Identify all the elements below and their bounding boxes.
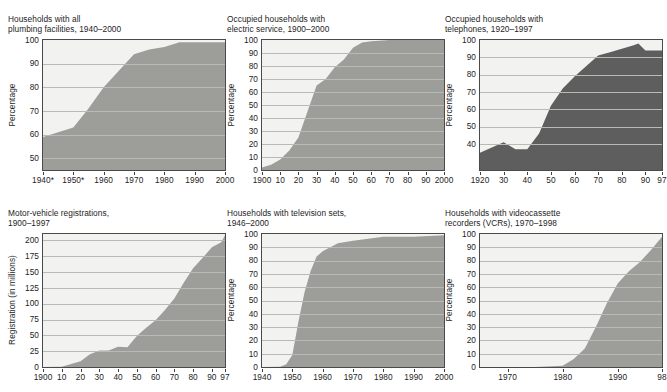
x-tick-label: 70: [594, 175, 603, 185]
plot-area-telephones: Percentage 100908070605040 1920304050607…: [443, 39, 658, 199]
gridline: [262, 131, 444, 132]
y-tick-label: 70: [30, 106, 39, 116]
y-axis-ticks-plumbing: 1009080706050: [18, 39, 42, 171]
chart-title-motor-vehicles: Motor-vehicle registrations, 1900–1997: [8, 208, 221, 229]
plot-area-motor-vehicles: Registration (in millions) 2001751501251…: [6, 233, 221, 392]
y-tick-label: 0: [253, 362, 258, 372]
area-series-motor-vehicles: [43, 234, 225, 367]
x-tick-label: 80: [188, 372, 197, 382]
y-tick-label: 175: [25, 251, 39, 261]
gridline: [480, 340, 662, 341]
chart-title-electric: Occupied households with electric servic…: [227, 14, 440, 35]
y-tick-label: 75: [30, 314, 39, 324]
y-tick-label: 50: [249, 295, 258, 305]
gridline: [480, 144, 662, 145]
x-tick-label: 1940*: [32, 175, 54, 185]
y-tick-label: 60: [249, 282, 258, 292]
gridline: [43, 240, 225, 241]
x-tick-label: 60: [151, 372, 160, 382]
x-tick-label: 30: [95, 372, 104, 382]
y-axis-ticks-electric: 1009080706050403020100: [237, 39, 261, 171]
x-tick-label: 1990: [404, 372, 423, 382]
chart-title-vcr: Households with videocassette recorders …: [445, 208, 658, 229]
y-tick-label: 50: [30, 330, 39, 340]
x-tick-label: 1950: [283, 372, 302, 382]
y-tick-label: 80: [249, 255, 258, 265]
x-tick-label: 1900: [253, 175, 272, 185]
y-tick-label: 25: [30, 346, 39, 356]
chart-panel-television: Households with television sets, 1946–20…: [225, 208, 440, 392]
x-axis-motor-vehicles: 190010203040506070809097: [42, 369, 226, 383]
y-tick-label: 100: [25, 298, 39, 308]
x-tick-label: 70: [385, 175, 394, 185]
y-tick-label: 30: [249, 126, 258, 136]
y-axis-ticks-vcr: 1009080706050403020100: [455, 233, 479, 368]
gridline: [480, 127, 662, 128]
gridline: [43, 272, 225, 273]
gridline: [262, 92, 444, 93]
x-tick-label: 90: [641, 175, 650, 185]
gridline: [262, 261, 444, 262]
x-tick-label: 70: [170, 372, 179, 382]
x-tick-label: 50: [546, 175, 555, 185]
chart-panel-vcr: Households with videocassette recorders …: [443, 208, 658, 392]
gridline: [480, 75, 662, 76]
y-tick-label: 100: [462, 229, 476, 239]
y-tick-label: 50: [249, 100, 258, 110]
chart-panel-plumbing: Households with all plumbing facilities,…: [6, 14, 221, 199]
gridline: [43, 320, 225, 321]
area-series-telephones: [480, 40, 662, 170]
x-tick-label: 40: [113, 372, 122, 382]
y-tick-label: 100: [244, 35, 258, 45]
gridline: [262, 53, 444, 54]
x-tick-label: 98: [657, 372, 666, 382]
gridline: [262, 354, 444, 355]
plot-box-vcr: [479, 233, 663, 368]
chart-panel-motor-vehicles: Motor-vehicle registrations, 1900–1997 R…: [6, 208, 221, 392]
x-tick-label: 1900: [34, 372, 53, 382]
plot-area-vcr: Percentage 1009080706050403020100 197019…: [443, 233, 658, 392]
gridline: [262, 79, 444, 80]
x-tick-label: 90: [421, 175, 430, 185]
plot-box-television: [261, 233, 445, 368]
plot-box-plumbing: [42, 39, 226, 171]
x-tick-label: 97: [657, 175, 666, 185]
x-tick-label: 1960: [313, 372, 332, 382]
y-axis-ticks-motor-vehicles: 2001751501251007550250: [18, 233, 42, 368]
y-tick-label: 100: [244, 229, 258, 239]
gridline: [480, 247, 662, 248]
y-tick-label: 70: [249, 74, 258, 84]
y-tick-label: 90: [467, 52, 476, 62]
x-axis-vcr: 19701980199098: [479, 369, 663, 383]
gridline: [262, 157, 444, 158]
x-axis-electric: 19001020304050607080902000: [261, 172, 445, 186]
y-tick-label: 80: [249, 61, 258, 71]
y-tick-label: 90: [30, 58, 39, 68]
y-tick-label: 70: [249, 269, 258, 279]
x-tick-label: 1980: [553, 372, 572, 382]
gridline: [43, 304, 225, 305]
y-axis-label-vcr: Percentage: [443, 233, 455, 368]
gridline: [480, 92, 662, 93]
x-tick-label: 80: [617, 175, 626, 185]
y-tick-label: 50: [467, 121, 476, 131]
x-tick-label: 30: [312, 175, 321, 185]
y-tick-label: 125: [25, 283, 39, 293]
y-tick-label: 40: [249, 309, 258, 319]
x-tick-label: 1990: [609, 372, 628, 382]
x-tick-label: 1970: [344, 372, 363, 382]
x-tick-label: 30: [499, 175, 508, 185]
y-tick-label: 80: [467, 69, 476, 79]
x-tick-label: 80: [403, 175, 412, 185]
gridline: [262, 301, 444, 302]
gridline: [480, 274, 662, 275]
gridline: [43, 87, 225, 88]
y-tick-label: 70: [467, 87, 476, 97]
plot-box-motor-vehicles: [42, 233, 226, 368]
x-tick-label: 1980: [155, 175, 174, 185]
x-tick-label: 50: [348, 175, 357, 185]
gridline: [262, 287, 444, 288]
plot-box-telephones: [479, 39, 663, 171]
y-tick-label: 90: [249, 48, 258, 58]
y-tick-label: 0: [253, 165, 258, 175]
